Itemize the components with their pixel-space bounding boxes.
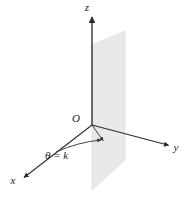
figure-container: z y x O θ = k bbox=[0, 0, 191, 197]
coordinate-system-diagram: z y x O θ = k bbox=[0, 0, 191, 197]
x-axis-label: x bbox=[10, 174, 16, 186]
origin-label: O bbox=[72, 112, 80, 124]
angle-label: θ = k bbox=[45, 149, 69, 161]
theta-equals-k-plane bbox=[92, 31, 125, 190]
z-axis-label: z bbox=[84, 1, 90, 13]
y-axis-label: y bbox=[173, 141, 179, 153]
